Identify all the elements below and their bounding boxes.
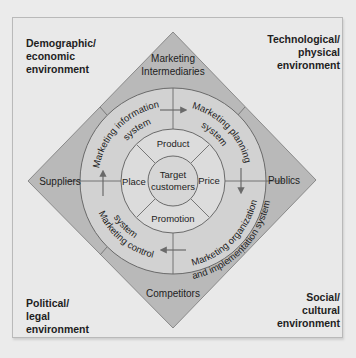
promotion-label: Promotion	[151, 213, 194, 224]
marketing-environment-diagram: Marketing Intermediaries Suppliers Publi…	[0, 0, 356, 358]
target-customers-label-line2: customers	[151, 181, 195, 192]
price-label: Price	[198, 175, 220, 186]
marketing-intermediaries-label: Marketing	[151, 53, 195, 64]
publics-label: Publics	[268, 175, 300, 186]
target-customers-label: Target	[160, 169, 187, 180]
place-label: Place	[122, 176, 146, 187]
competitors-label: Competitors	[146, 288, 200, 299]
product-label: Product	[157, 138, 190, 149]
marketing-intermediaries-label-line2: Intermediaries	[141, 66, 204, 77]
suppliers-label: Suppliers	[39, 176, 81, 187]
